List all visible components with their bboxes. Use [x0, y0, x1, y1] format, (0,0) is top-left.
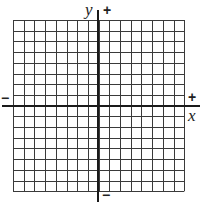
- y-positive-sign: +: [103, 3, 111, 17]
- x-positive-sign: +: [188, 90, 196, 104]
- y-negative-sign: −: [102, 188, 110, 202]
- coordinate-plane: [0, 0, 201, 202]
- x-axis-label: x: [188, 107, 196, 124]
- y-axis-label: y: [85, 1, 93, 18]
- x-negative-sign: −: [1, 91, 9, 105]
